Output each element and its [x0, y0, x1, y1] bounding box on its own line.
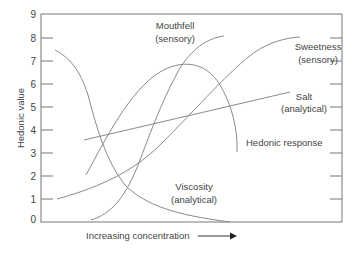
mouthfeel-curve	[91, 36, 224, 220]
svg-text:(sensory): (sensory)	[298, 54, 338, 65]
y-tick-1: 1	[30, 194, 36, 205]
svg-text:Salt: Salt	[296, 91, 313, 102]
svg-text:(sensory): (sensory)	[155, 33, 195, 44]
y-axis-tick-labels: 0 1 2 3 4 5 6 7 8 9	[30, 9, 36, 225]
x-axis-title: Increasing concentration	[86, 230, 190, 241]
label-salt: Salt (analytical)	[281, 91, 327, 114]
chart-canvas: 0 1 2 3 4 5 6 7 8 9 Hedonic value Increa…	[0, 0, 358, 253]
y-tick-3: 3	[30, 148, 36, 159]
arrow-right-icon	[198, 233, 237, 240]
svg-text:Mouthfell: Mouthfell	[156, 20, 195, 31]
label-sweetness: Sweetness (sensory)	[295, 41, 342, 65]
svg-text:Sweetness: Sweetness	[295, 41, 342, 52]
label-mouthfeel: Mouthfell (sensory)	[155, 20, 195, 44]
y-tick-5: 5	[30, 102, 36, 113]
y-tick-8: 8	[30, 33, 36, 44]
label-viscosity: Viscosity (analytical)	[171, 181, 217, 205]
y-tick-7: 7	[30, 56, 36, 67]
svg-text:Viscosity: Viscosity	[175, 181, 213, 192]
label-hedonic-response: Hedonic response	[246, 137, 323, 148]
y-tick-0: 0	[30, 214, 36, 225]
y-axis-title: Hedonic value	[15, 88, 26, 148]
y-tick-4: 4	[30, 125, 36, 136]
y-tick-6: 6	[30, 79, 36, 90]
y-tick-2: 2	[30, 171, 36, 182]
salt-line	[84, 92, 290, 140]
y-axis-ticks-left	[41, 38, 53, 199]
y-tick-9: 9	[30, 9, 36, 20]
svg-text:(analytical): (analytical)	[281, 103, 327, 114]
svg-text:(analytical): (analytical)	[171, 194, 217, 205]
svg-text:Hedonic response: Hedonic response	[246, 137, 323, 148]
